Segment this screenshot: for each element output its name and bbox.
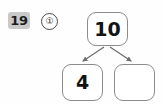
arrow-to-part-2 [110,47,131,61]
worksheet-canvas: 19 ① 10 4 [0,0,162,105]
problem-number-badge: 19 [8,12,30,29]
item-marker-circled-one: ① [41,13,58,30]
bond-part-1-value: 4 [63,65,102,100]
bond-total-value: 10 [88,13,127,45]
bond-box-part-1[interactable]: 4 [62,64,103,101]
bond-box-total[interactable]: 10 [87,12,128,46]
bond-box-part-2[interactable] [114,64,155,101]
arrow-to-part-1 [83,47,104,61]
